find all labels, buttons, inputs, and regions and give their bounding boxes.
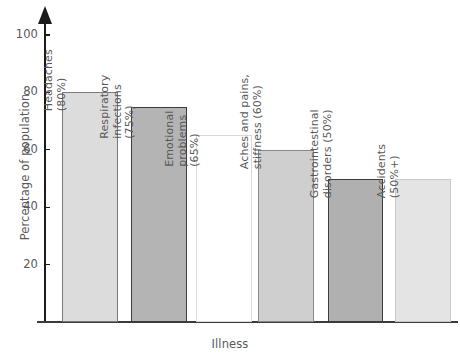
x-axis-title: Illness	[0, 337, 460, 351]
bar-category-label: Emotional problems (65%)	[164, 111, 202, 167]
y-tick-label: 100	[12, 29, 38, 41]
bar-category-label: Headaches (80%)	[43, 50, 68, 112]
bar[interactable]	[258, 150, 314, 322]
bar-category-label: Respiratory infections (75%)	[99, 74, 137, 138]
y-tick-mark	[44, 264, 50, 265]
y-tick-mark	[44, 207, 50, 208]
bar-category-label: Accidents (50%+)	[376, 144, 401, 198]
y-axis-arrow-icon	[38, 6, 52, 24]
bar-chart: 20406080100 Headaches (80%)Respiratory i…	[0, 0, 460, 359]
y-tick-label: 20	[12, 259, 38, 271]
bar[interactable]	[328, 179, 383, 323]
y-tick-mark	[44, 34, 50, 35]
bar-category-label: Aches and pains, stiffness (60%)	[239, 74, 264, 169]
bar[interactable]	[395, 179, 451, 323]
y-axis-title: Percentage of population	[18, 87, 32, 247]
y-tick-mark	[44, 149, 50, 150]
bar-category-label: Gastrointestinal disorders (50%)	[309, 109, 334, 198]
